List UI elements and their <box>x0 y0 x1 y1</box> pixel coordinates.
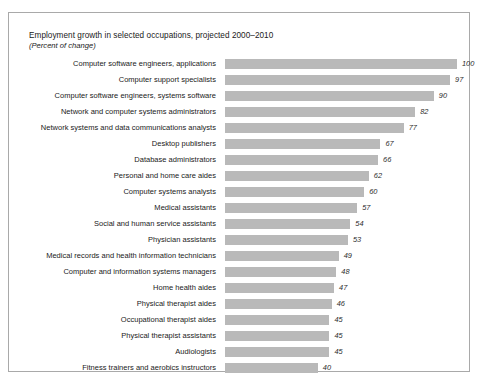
bar-category-label: Fitness trainers and aerobics instructor… <box>82 360 216 376</box>
bar-track: 57 <box>225 203 469 213</box>
bar-category-label: Physical therapist aides <box>137 296 216 312</box>
bar-value-label: 77 <box>409 123 417 133</box>
bar-fill <box>225 283 334 293</box>
bar-row: Medical assistants57 <box>21 200 469 216</box>
bar-track: 62 <box>225 171 469 181</box>
chart-title: Employment growth in selected occupation… <box>29 30 449 41</box>
bar-category-label: Database administrators <box>134 152 216 168</box>
chart-subtitle: (Percent of change) <box>29 41 449 51</box>
bar-row: Desktop publishers67 <box>21 136 469 152</box>
bar-row: Network and computer systems administrat… <box>21 104 469 120</box>
bar-value-label: 66 <box>383 155 391 165</box>
bar-fill <box>225 203 357 213</box>
chart-frame: Employment growth in selected occupation… <box>8 12 470 372</box>
bar-category-label: Computer software engineers, systems sof… <box>55 88 216 104</box>
bar-category-label: Desktop publishers <box>152 136 216 152</box>
bar-row: Audiologists45 <box>21 344 469 360</box>
bar-category-label: Social and human service assistants <box>94 216 216 232</box>
bar-value-label: 47 <box>339 283 347 293</box>
bar-track: 54 <box>225 219 469 229</box>
bar-track: 46 <box>225 299 469 309</box>
bar-fill <box>225 155 378 165</box>
bar-fill <box>225 235 348 245</box>
bar-value-label: 54 <box>355 219 363 229</box>
bar-category-label: Home health aides <box>153 280 216 296</box>
bar-category-label: Computer software engineers, application… <box>73 56 216 72</box>
bar-row: Home health aides47 <box>21 280 469 296</box>
bar-value-label: 40 <box>323 363 331 373</box>
bar-row: Physical therapist aides46 <box>21 296 469 312</box>
bar-row: Physician assistants53 <box>21 232 469 248</box>
bar-category-label: Network and computer systems administrat… <box>61 104 216 120</box>
bar-value-label: 45 <box>334 347 342 357</box>
bar-value-label: 53 <box>353 235 361 245</box>
bar-row: Computer software engineers, application… <box>21 56 469 72</box>
bar-fill <box>225 123 404 133</box>
bar-value-label: 45 <box>334 315 342 325</box>
chart-title-block: Employment growth in selected occupation… <box>29 30 449 51</box>
bar-track: 45 <box>225 331 469 341</box>
bar-fill <box>225 347 329 357</box>
bar-chart-plot-area: Computer software engineers, application… <box>21 56 469 381</box>
bar-value-label: 46 <box>337 299 345 309</box>
bar-track: 40 <box>225 363 469 373</box>
bar-category-label: Computer and information systems manager… <box>63 264 216 280</box>
bar-row: Computer and information systems manager… <box>21 264 469 280</box>
bar-category-label: Personal and home care aides <box>114 168 216 184</box>
bar-track: 53 <box>225 235 469 245</box>
bar-row: Database administrators66 <box>21 152 469 168</box>
bar-category-label: Physical therapist assistants <box>121 328 216 344</box>
bar-track: 77 <box>225 123 469 133</box>
bar-fill <box>225 171 369 181</box>
bar-fill <box>225 219 350 229</box>
bar-fill <box>225 363 318 373</box>
bar-track: 48 <box>225 267 469 277</box>
bar-category-label: Medical records and health information t… <box>46 248 216 264</box>
bar-track: 47 <box>225 283 469 293</box>
bar-fill <box>225 107 415 117</box>
bar-value-label: 90 <box>439 91 447 101</box>
bar-value-label: 60 <box>369 187 377 197</box>
bar-fill <box>225 91 434 101</box>
bar-track: 90 <box>225 91 469 101</box>
bar-track: 45 <box>225 315 469 325</box>
bar-value-label: 82 <box>420 107 428 117</box>
bar-value-label: 48 <box>341 267 349 277</box>
bar-row: Computer software engineers, systems sof… <box>21 88 469 104</box>
bar-category-label: Computer systems analysts <box>123 184 216 200</box>
bar-fill <box>225 267 336 277</box>
bar-category-label: Network systems and data communications … <box>41 120 216 136</box>
bar-fill <box>225 315 329 325</box>
bar-row: Physical therapist assistants45 <box>21 328 469 344</box>
bar-row: Fitness trainers and aerobics instructor… <box>21 360 469 376</box>
bar-track: 60 <box>225 187 469 197</box>
bar-value-label: 67 <box>385 139 393 149</box>
bar-row: Personal and home care aides62 <box>21 168 469 184</box>
bar-fill <box>225 251 339 261</box>
bar-fill <box>225 299 332 309</box>
bar-fill <box>225 139 380 149</box>
bar-row: Occupational therapist aides45 <box>21 312 469 328</box>
bar-fill <box>225 59 457 69</box>
bar-category-label: Physician assistants <box>148 232 216 248</box>
bar-value-label: 49 <box>344 251 352 261</box>
bar-track: 97 <box>225 75 469 85</box>
bar-category-label: Audiologists <box>175 344 216 360</box>
bar-value-label: 57 <box>362 203 370 213</box>
bar-row: Computer support specialists97 <box>21 72 469 88</box>
bar-value-label: 45 <box>334 331 342 341</box>
bar-row: Network systems and data communications … <box>21 120 469 136</box>
bar-fill <box>225 187 364 197</box>
bar-category-label: Medical assistants <box>154 200 216 216</box>
bar-value-label: 97 <box>455 75 463 85</box>
bar-fill <box>225 331 329 341</box>
bar-value-label: 100 <box>462 59 474 69</box>
bar-row: Social and human service assistants54 <box>21 216 469 232</box>
bar-category-label: Computer support specialists <box>119 72 216 88</box>
bar-track: 100 <box>225 59 469 69</box>
bar-track: 49 <box>225 251 469 261</box>
bar-track: 67 <box>225 139 469 149</box>
bar-value-label: 62 <box>374 171 382 181</box>
bar-row: Computer systems analysts60 <box>21 184 469 200</box>
bar-fill <box>225 75 450 85</box>
